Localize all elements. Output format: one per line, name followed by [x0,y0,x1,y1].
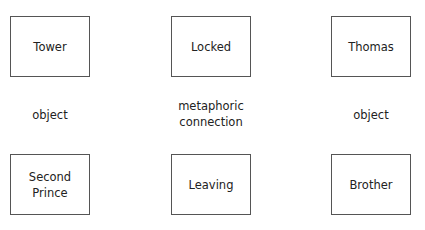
box-second-prince: Second Prince [10,154,90,215]
connection-label-text: object [353,108,388,122]
box-label: Locked [191,39,231,55]
box-leaving: Leaving [171,154,251,215]
box-label: Tower [33,39,66,55]
box-thomas: Thomas [331,16,411,77]
box-label: Brother [349,177,392,193]
connection-label-line1: metaphoric [151,98,271,114]
connection-label-left: object [10,107,90,123]
connection-label-line2: connection [151,114,271,130]
box-label: Leaving [189,177,234,193]
box-label: Second Prince [29,169,71,201]
box-tower: Tower [10,16,90,77]
box-label-line2: Prince [29,185,71,201]
box-label-line1: Second [29,169,71,185]
connection-label-right: object [331,107,411,123]
box-locked: Locked [171,16,251,77]
connection-label-text: object [32,108,67,122]
box-brother: Brother [331,154,411,215]
connection-label-center: metaphoric connection [151,98,271,130]
box-label: Thomas [348,39,394,55]
